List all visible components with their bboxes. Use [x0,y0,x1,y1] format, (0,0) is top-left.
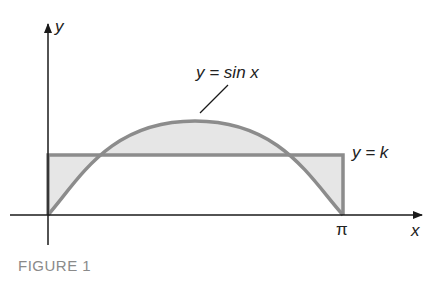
diagram-canvas [0,0,443,284]
constant-line-label: y = k [352,143,388,163]
label-leader-line [200,85,228,113]
figure-caption: FIGURE 1 [18,257,91,274]
pi-tick-label: π [336,220,348,240]
shaded-region-top [110,121,280,155]
sine-curve-label: y = sin x [196,63,259,83]
y-axis-label: y [55,17,64,37]
x-axis-label: x [411,221,420,241]
